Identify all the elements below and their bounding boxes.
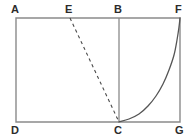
rectangle-outline xyxy=(16,18,180,122)
vertex-label-f: F xyxy=(175,4,182,15)
figure-canvas xyxy=(0,0,193,139)
vertex-label-e: E xyxy=(65,4,72,15)
geometry-diagram: A E B F D C G xyxy=(0,0,193,139)
vertex-label-g: G xyxy=(175,125,184,136)
vertex-label-c: C xyxy=(114,125,122,136)
segment-ec-dashed xyxy=(70,18,119,122)
vertex-label-b: B xyxy=(114,4,122,15)
curve-cf xyxy=(119,18,180,122)
vertex-label-d: D xyxy=(11,125,19,136)
vertex-label-a: A xyxy=(11,4,19,15)
